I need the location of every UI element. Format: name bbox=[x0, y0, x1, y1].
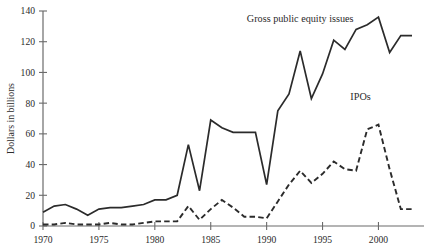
y-tick-label: 40 bbox=[25, 159, 35, 170]
y-axis: 020406080100120140 bbox=[21, 5, 47, 231]
y-axis-title: Dollars in billions bbox=[5, 83, 16, 154]
series-annotation-gross-public-equity-issues: Gross public equity issues bbox=[247, 13, 354, 24]
y-axis-title-text: Dollars in billions bbox=[5, 83, 16, 154]
x-tick-label: 1970 bbox=[33, 234, 52, 245]
y-tick-label: 100 bbox=[21, 67, 36, 78]
series-annotation-ipos: IPOs bbox=[350, 91, 370, 102]
y-tick-label: 60 bbox=[25, 128, 35, 139]
x-tick-label: 1975 bbox=[89, 234, 108, 245]
y-tick-label: 80 bbox=[25, 98, 35, 109]
x-tick-label: 1985 bbox=[201, 234, 220, 245]
y-tick-label: 0 bbox=[30, 220, 35, 231]
y-tick-label: 120 bbox=[21, 36, 36, 47]
chart-plot-area: 020406080100120140 197019751980198519901… bbox=[0, 0, 427, 252]
chart-figure: 020406080100120140 197019751980198519901… bbox=[0, 0, 427, 252]
x-tick-label: 2000 bbox=[369, 234, 388, 245]
y-tick-label: 140 bbox=[21, 5, 36, 16]
chart-series-group bbox=[43, 17, 412, 224]
x-tick-label: 1980 bbox=[145, 234, 164, 245]
x-tick-label: 1995 bbox=[313, 234, 332, 245]
x-tick-label: 1990 bbox=[257, 234, 276, 245]
series-line-gross-public-equity-issues bbox=[43, 17, 412, 215]
y-tick-label: 20 bbox=[25, 190, 35, 201]
x-axis: 1970197519801985199019952000 bbox=[33, 222, 424, 245]
